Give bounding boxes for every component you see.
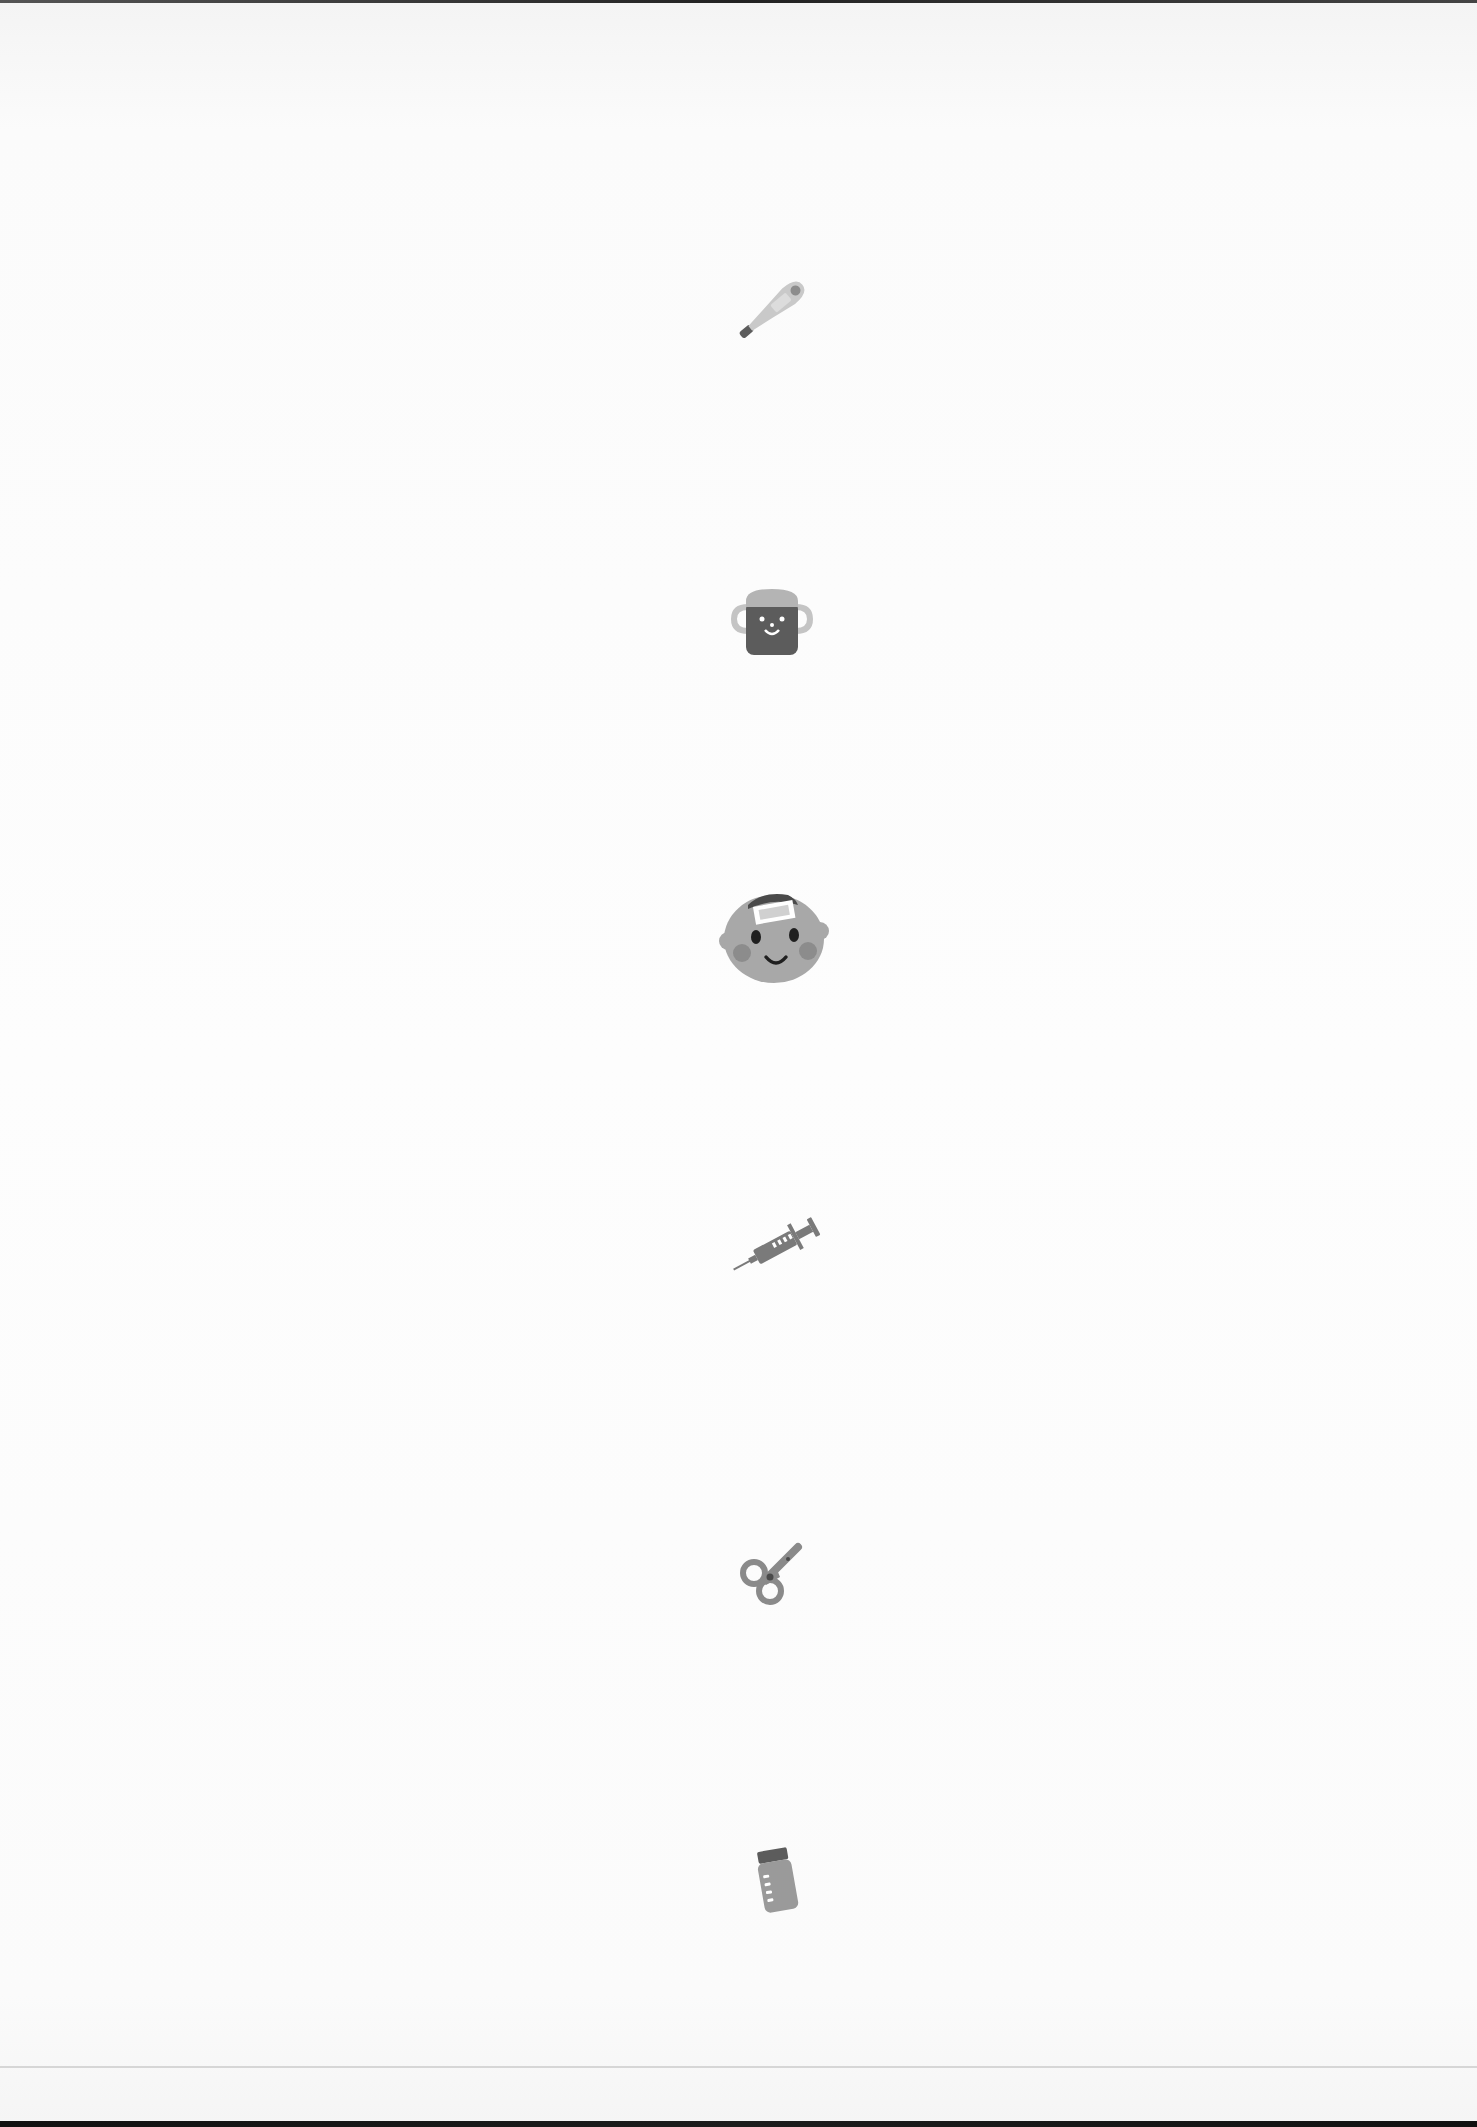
sippy-cup-icon [728, 585, 816, 657]
baby-face-fever-patch-icon [714, 887, 834, 983]
medicine-bottle-icon [752, 1845, 804, 1915]
syringe-icon [726, 1211, 826, 1283]
baby-scissors-icon [736, 1539, 808, 1611]
scan-edge-bottom [0, 2121, 1477, 2127]
thermometer-icon [726, 269, 816, 353]
document-page [0, 3, 1477, 2122]
horizontal-rule [0, 2066, 1477, 2068]
